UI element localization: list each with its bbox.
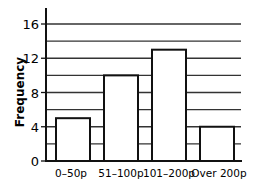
y-tick-label: 16	[22, 17, 39, 32]
histogram-chart: 0481216 0–50p51–100p101–200pOver 200p Fr…	[0, 0, 253, 186]
x-category-label: 51–100p	[98, 167, 144, 179]
bar	[56, 118, 90, 161]
y-tick-label: 0	[31, 154, 39, 169]
y-tick-label: 8	[31, 86, 39, 101]
y-axis-label: Frequency	[13, 57, 27, 127]
x-category-label: 0–50p	[55, 167, 87, 179]
x-category-labels: 0–50p51–100p101–200pOver 200p	[55, 167, 247, 179]
y-tick-label: 4	[31, 120, 39, 135]
bar	[104, 75, 138, 161]
bar	[200, 127, 234, 161]
x-category-label: 101–200p	[143, 167, 195, 179]
x-category-label: Over 200p	[191, 167, 247, 179]
bar	[152, 50, 186, 161]
